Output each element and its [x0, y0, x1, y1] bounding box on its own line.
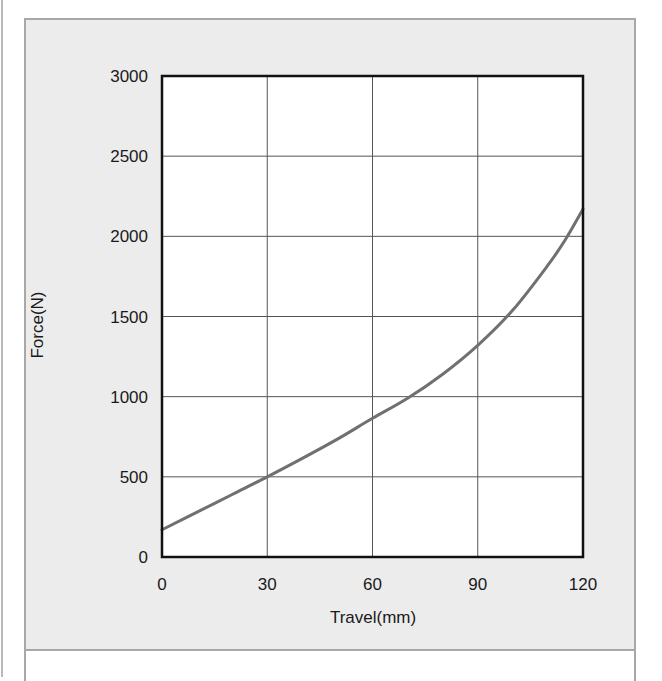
y-tick-label: 3000 [110, 67, 148, 86]
x-tick-label: 30 [258, 575, 277, 594]
x-axis-label: Travel(mm) [330, 608, 416, 627]
x-tick-label: 120 [569, 575, 597, 594]
y-tick-label: 1500 [110, 308, 148, 327]
y-tick-label: 500 [120, 468, 148, 487]
y-tick-label: 2000 [110, 227, 148, 246]
x-tick-label: 0 [157, 575, 166, 594]
x-axis-ticks: 0306090120 [157, 575, 597, 594]
y-tick-label: 1000 [110, 388, 148, 407]
y-tick-label: 2500 [110, 147, 148, 166]
x-tick-label: 90 [468, 575, 487, 594]
y-axis-label: Force(N) [28, 291, 47, 358]
x-tick-label: 60 [363, 575, 382, 594]
y-axis-ticks: 050010001500200025003000 [110, 67, 148, 567]
y-tick-label: 0 [139, 548, 148, 567]
